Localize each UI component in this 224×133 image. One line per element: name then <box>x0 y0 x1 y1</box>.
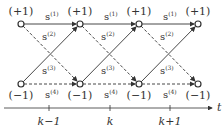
tick-label: k−1 <box>38 115 61 128</box>
state-label: (+1) <box>68 5 93 18</box>
svg-text:s(1): s(1) <box>104 10 118 22</box>
time-axis <box>4 105 212 111</box>
state-label: (−1) <box>127 89 152 102</box>
state-label: (−1) <box>186 89 211 102</box>
node-top-2 <box>136 21 142 27</box>
trellis-diagram: (+1) (+1) (+1) (+1) (−1) (−1) (−1) (−1) … <box>0 0 224 133</box>
svg-text:s(4): s(4) <box>163 88 177 100</box>
node-top-3 <box>195 21 201 27</box>
tick-label: k <box>107 115 114 128</box>
node-top-1 <box>77 21 83 27</box>
node-bottom-3 <box>195 81 201 87</box>
svg-text:s(4): s(4) <box>45 88 59 100</box>
node-bottom-2 <box>136 81 142 87</box>
svg-text:s(1): s(1) <box>163 10 177 22</box>
svg-text:s(3): s(3) <box>101 64 115 76</box>
svg-text:s(1): s(1) <box>45 10 59 22</box>
node-top-0 <box>18 21 24 27</box>
state-label: (−1) <box>9 89 34 102</box>
branch-labels-s1: s(1) s(1) s(1) <box>45 10 177 22</box>
branch-labels-s2: s(2) s(2) s(2) <box>42 30 174 42</box>
tick-label: k+1 <box>159 115 182 128</box>
branch-labels-s4: s(4) s(4) s(4) <box>45 88 177 100</box>
svg-text:s(4): s(4) <box>104 88 118 100</box>
axis-label-t: t <box>217 101 222 114</box>
svg-text:s(2): s(2) <box>160 30 174 42</box>
state-label: (+1) <box>127 5 152 18</box>
state-label: (+1) <box>186 5 211 18</box>
svg-text:s(2): s(2) <box>42 30 56 42</box>
state-label: (+1) <box>9 5 34 18</box>
svg-text:s(2): s(2) <box>101 30 115 42</box>
state-label: (−1) <box>68 89 93 102</box>
node-bottom-1 <box>77 81 83 87</box>
node-bottom-0 <box>18 81 24 87</box>
svg-text:s(3): s(3) <box>160 64 174 76</box>
svg-text:s(3): s(3) <box>42 64 56 76</box>
